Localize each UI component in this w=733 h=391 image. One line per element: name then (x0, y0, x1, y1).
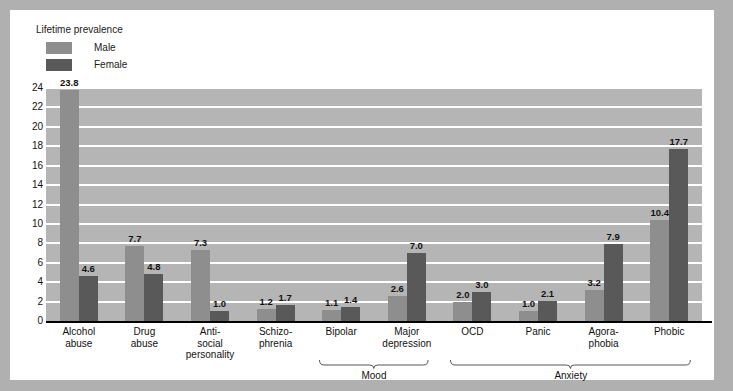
category-label-line: phrenia (226, 338, 326, 350)
bar-value-label: 4.8 (147, 261, 160, 272)
y-axis-tick-label: 20 (13, 121, 43, 132)
bar-male: 7.3 (191, 250, 210, 321)
legend-entry-female: Female (36, 57, 127, 72)
y-axis-tick-label: 6 (13, 257, 43, 268)
legend-entry-male: Male (36, 40, 127, 55)
bar-group: 7.74.8 (125, 246, 163, 321)
bar-group: 10.417.7 (650, 149, 688, 321)
x-axis-category-label: Phobic (619, 326, 719, 338)
bar-male: 1.0 (519, 311, 538, 321)
bar-value-label: 4.6 (82, 263, 95, 274)
legend-label-male: Male (94, 42, 116, 53)
bar-male: 23.8 (60, 90, 79, 321)
bar-value-label: 7.9 (606, 231, 619, 242)
chart-card: Lifetime prevalence Male Female 24222018… (10, 10, 714, 380)
legend-swatch-male (46, 42, 72, 54)
bar-value-label: 2.0 (456, 289, 469, 300)
y-axis-tick-label: 18 (13, 140, 43, 151)
bar-value-label: 3.2 (587, 277, 600, 288)
gridline (46, 145, 702, 147)
bar-value-label: 7.0 (410, 240, 423, 251)
bar-group: 3.27.9 (585, 244, 623, 321)
bar-value-label: 7.3 (194, 237, 207, 248)
bar-group: 7.31.0 (191, 250, 229, 321)
bar-group: 2.03.0 (453, 292, 491, 321)
legend-title: Lifetime prevalence (36, 24, 127, 35)
category-label-line: Phobic (619, 326, 719, 338)
bar-male: 2.6 (388, 296, 407, 321)
legend-swatch-female (46, 59, 72, 71)
group-bracket-label: Anxiety (450, 370, 691, 381)
gridline (46, 204, 702, 206)
y-axis-tick-label: 24 (13, 82, 43, 93)
bar-male: 10.4 (650, 220, 669, 321)
y-axis-tick-label: 8 (13, 237, 43, 248)
bar-female: 1.0 (210, 311, 229, 321)
bar-female: 1.7 (276, 305, 295, 322)
bar-value-label: 1.0 (213, 298, 226, 309)
bar-value-label: 7.7 (128, 233, 141, 244)
chart-legend: Lifetime prevalence Male Female (36, 24, 127, 74)
x-axis-line (46, 321, 712, 323)
group-bracket-label: Mood (319, 370, 429, 381)
bar-female: 4.8 (144, 274, 163, 321)
bar-value-label: 1.1 (325, 297, 338, 308)
category-label-line: personality (160, 349, 260, 361)
y-axis-tick-label: 14 (13, 179, 43, 190)
y-axis-tick-label: 4 (13, 276, 43, 287)
group-bracket (450, 360, 691, 369)
bar-value-label: 2.1 (541, 288, 554, 299)
y-axis-tick-label: 16 (13, 160, 43, 171)
category-label-line: phobia (554, 338, 654, 350)
bar-value-label: 23.8 (60, 77, 79, 88)
category-label-line: depression (357, 338, 457, 350)
bar-value-label: 1.4 (344, 294, 357, 305)
bar-female: 7.9 (604, 244, 623, 321)
bar-female: 4.6 (79, 276, 98, 321)
bar-value-label: 1.2 (259, 296, 272, 307)
gridline (46, 184, 702, 186)
bar-female: 17.7 (669, 149, 688, 321)
bar-value-label: 1.7 (278, 292, 291, 303)
bar-male: 1.2 (257, 309, 276, 321)
gridline (46, 223, 702, 225)
bar-female: 7.0 (407, 253, 426, 321)
bar-group: 23.84.6 (60, 90, 98, 321)
bar-male: 7.7 (125, 246, 144, 321)
bar-value-label: 1.0 (522, 298, 535, 309)
bar-female: 1.4 (341, 307, 360, 321)
bar-value-label: 10.4 (650, 207, 669, 218)
plot-area: 23.84.67.74.87.31.01.21.71.11.42.67.02.0… (46, 88, 702, 321)
bar-female: 3.0 (472, 292, 491, 321)
bar-value-label: 2.6 (391, 283, 404, 294)
bar-male: 1.1 (322, 310, 341, 321)
bar-group: 1.21.7 (257, 305, 295, 322)
gridline (46, 165, 702, 167)
bar-group: 1.11.4 (322, 307, 360, 321)
gridline (46, 106, 702, 108)
bar-group: 1.02.1 (519, 301, 557, 321)
gridline (46, 126, 702, 128)
bar-male: 2.0 (453, 302, 472, 321)
y-axis-tick-label: 0 (13, 315, 43, 326)
legend-label-female: Female (94, 59, 127, 70)
y-axis-tick-label: 22 (13, 101, 43, 112)
gridline (46, 87, 702, 89)
y-axis-tick-label: 12 (13, 199, 43, 210)
y-axis: 242220181614121086420 (10, 88, 43, 321)
bar-value-label: 17.7 (669, 136, 688, 147)
bar-female: 2.1 (538, 301, 557, 321)
bar-group: 2.67.0 (388, 253, 426, 321)
y-axis-tick-label: 2 (13, 296, 43, 307)
bar-male: 3.2 (585, 290, 604, 321)
bar-value-label: 3.0 (475, 279, 488, 290)
y-axis-tick-label: 10 (13, 218, 43, 229)
group-bracket (319, 360, 429, 369)
